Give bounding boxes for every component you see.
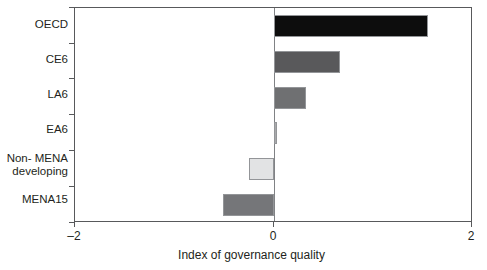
bar-ce6 <box>274 51 340 73</box>
x-axis-title: Index of governance quality <box>178 248 325 262</box>
y-label-ea6: EA6 <box>46 123 68 136</box>
y-label-non-mena-developing: Non- MENA developing <box>7 152 68 178</box>
bar-oecd <box>274 15 428 37</box>
zero-reference-line <box>274 8 275 221</box>
y-label-mena15: MENA15 <box>22 193 68 206</box>
bar-mena15 <box>223 194 274 216</box>
x-tick-0 <box>273 222 274 227</box>
bar-la6 <box>274 87 306 109</box>
y-label-ce6: CE6 <box>46 53 68 66</box>
x-axis-title-wrap: Index of governance quality <box>0 248 487 262</box>
governance-quality-bar-chart: OECD CE6 LA6 EA6 Non- MENA developing ME… <box>0 0 487 270</box>
x-ticklabel-0: 0 <box>270 229 277 243</box>
y-label-la6: LA6 <box>48 88 68 101</box>
x-ticklabel-neg2: –2 <box>67 229 80 243</box>
x-ticklabel-2: 2 <box>468 229 475 243</box>
y-axis-category-labels: OECD CE6 LA6 EA6 Non- MENA developing ME… <box>0 0 68 270</box>
x-tick-2 <box>471 222 472 227</box>
bar-non-mena-developing <box>249 158 274 180</box>
y-label-oecd: OECD <box>35 18 68 31</box>
x-tick-neg2 <box>74 222 75 227</box>
plot-area <box>74 7 472 222</box>
bar-ea6 <box>274 122 277 144</box>
